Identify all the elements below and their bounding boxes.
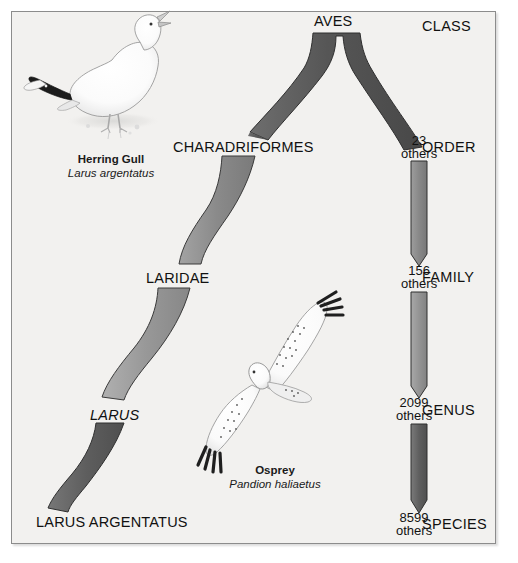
herring-gull-illustration [24, 11, 171, 139]
branch-laridae-larus [102, 288, 190, 400]
caption-osprey: Osprey Pandion haliaetus [212, 463, 338, 492]
osprey-illustration [198, 292, 343, 472]
branch-larus-species [48, 423, 124, 512]
taxon-label-charadriformes: CHARADRIFORMES [173, 140, 314, 155]
others-label-genus: 2099 others [396, 396, 432, 423]
others-label-order: 23 others [401, 134, 437, 161]
arrow-genus-to-species [411, 424, 427, 513]
others-count-genus: 2099 [396, 396, 432, 409]
caption-common-name-herring-gull: Herring Gull [48, 152, 174, 166]
others-word-species: others [396, 524, 432, 537]
others-word-genus: others [396, 409, 432, 422]
caption-scientific-name-osprey: Pandion haliaetus [212, 477, 338, 491]
others-count-species: 8599 [396, 511, 432, 524]
branch-aves-split [250, 33, 422, 150]
others-word-family: others [401, 277, 437, 290]
branch-charadriformes-laridae [179, 156, 255, 264]
taxon-label-laridae: LARIDAE [146, 271, 209, 286]
caption-common-name-osprey: Osprey [212, 463, 338, 477]
figure-canvas: CLASS ORDER FAMILY GENUS SPECIES AVES CH… [0, 0, 518, 563]
arrow-family-to-genus [411, 292, 427, 398]
others-word-order: others [401, 147, 437, 160]
taxon-label-larus: LARUS [90, 408, 139, 423]
others-count-family: 156 [401, 264, 437, 277]
caption-herring-gull: Herring Gull Larus argentatus [48, 152, 174, 181]
taxon-label-aves: AVES [314, 14, 352, 29]
others-label-species: 8599 others [396, 511, 432, 538]
taxon-label-larus-argentatus: LARUS ARGENTATUS [36, 515, 188, 530]
caption-scientific-name-herring-gull: Larus argentatus [48, 166, 174, 180]
rank-label-class: CLASS [422, 19, 471, 34]
others-count-order: 23 [401, 134, 437, 147]
arrow-order-to-family [411, 161, 427, 266]
others-label-family: 156 others [401, 264, 437, 291]
